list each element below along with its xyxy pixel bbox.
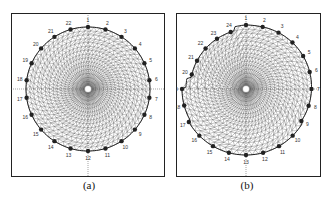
electrode-21 [52, 35, 56, 39]
electrode-7 [309, 87, 313, 91]
electrode-12 [86, 149, 90, 153]
electrode-label: 2 [263, 17, 266, 23]
electrode-15 [39, 127, 43, 131]
electrode-6 [147, 78, 151, 82]
electrode-22 [68, 27, 72, 31]
electrode-19 [180, 87, 184, 91]
electrode-label: 19 [176, 86, 178, 92]
electrode-label: 1 [87, 17, 90, 23]
electrode-24 [229, 30, 233, 34]
electrode-label: 19 [22, 57, 28, 63]
center-hole [243, 86, 250, 93]
electrode-14 [52, 139, 56, 143]
mesh-diagram-a: 12345678910111213141516171819202122 [11, 13, 165, 177]
electrode-label: 8 [314, 104, 317, 110]
electrode-label: 10 [123, 144, 129, 150]
electrode-label: 6 [155, 76, 158, 82]
electrode-label: 13 [66, 152, 72, 158]
electrode-label: 1 [245, 15, 248, 21]
electrode-label: 5 [149, 57, 152, 63]
electrode-label: 14 [48, 144, 54, 150]
electrode-8 [142, 113, 146, 117]
electrode-label: 13 [243, 159, 249, 165]
electrode-13 [68, 146, 72, 150]
electrode-label: 7 [317, 86, 320, 92]
electrode-label: 17 [17, 96, 23, 102]
electrode-1 [244, 23, 248, 27]
electrode-20 [39, 46, 43, 50]
electrode-label: 3 [281, 23, 284, 29]
electrode-2 [260, 25, 264, 29]
panel-b: 123456789101112131415161718192021222324 [176, 13, 321, 181]
panel-a: 12345678910111213141516171819202122 [11, 13, 165, 181]
electrode-label: 7 [155, 96, 158, 102]
electrode-label: 21 [188, 54, 194, 60]
electrode-label: 8 [149, 114, 152, 120]
electrode-18 [24, 78, 28, 82]
electrode-label: 14 [224, 156, 230, 162]
electrode-4 [133, 46, 137, 50]
electrode-19 [29, 61, 33, 65]
center-hole [85, 86, 92, 93]
electrode-label: 6 [315, 67, 318, 73]
electrode-18 [182, 103, 186, 107]
electrode-20 [190, 72, 194, 76]
electrode-label: 15 [33, 131, 39, 137]
electrode-7 [147, 96, 151, 100]
electrode-label: 3 [124, 28, 127, 34]
electrode-label: 12 [85, 155, 91, 161]
electrode-10 [119, 139, 123, 143]
electrode-3 [276, 30, 280, 34]
electrode-label: 23 [211, 30, 217, 36]
electrode-label: 20 [182, 69, 188, 75]
electrode-11 [277, 144, 281, 148]
electrode-label: 2 [106, 20, 109, 26]
electrode-13 [244, 153, 248, 157]
electrode-label: 16 [22, 114, 28, 120]
electrode-5 [142, 61, 146, 65]
caption-a: (a) [69, 179, 109, 191]
electrode-label: 18 [176, 104, 180, 110]
mesh-diagram-b: 123456789101112131415161718192021222324 [176, 13, 321, 177]
electrode-16 [29, 113, 33, 117]
electrode-label: 4 [296, 34, 299, 40]
electrode-label: 5 [308, 49, 311, 55]
electrode-label: 24 [226, 22, 232, 28]
electrode-5 [301, 54, 305, 58]
electrode-21 [195, 59, 199, 63]
electrode-label: 16 [192, 137, 198, 143]
electrode-3 [119, 35, 123, 39]
electrode-12 [261, 151, 265, 155]
electrode-1 [86, 25, 90, 29]
electrode-label: 18 [17, 76, 23, 82]
electrode-23 [215, 37, 219, 41]
electrode-label: 4 [139, 41, 142, 47]
electrode-label: 9 [306, 121, 309, 127]
electrode-label: 10 [295, 137, 301, 143]
electrode-label: 15 [207, 149, 213, 155]
electrode-2 [103, 27, 107, 31]
electrode-9 [133, 127, 137, 131]
caption-b: (b) [227, 179, 267, 191]
electrode-label: 20 [33, 41, 39, 47]
electrode-label: 12 [262, 156, 268, 162]
electrode-label: 11 [105, 152, 110, 158]
electrode-6 [307, 70, 311, 74]
electrode-16 [197, 133, 201, 137]
electrode-label: 21 [48, 28, 54, 34]
electrode-9 [299, 119, 303, 123]
electrode-label: 22 [66, 20, 72, 26]
electrode-label: 11 [280, 149, 285, 155]
electrode-17 [187, 120, 191, 124]
electrode-label: 22 [198, 40, 204, 46]
electrode-17 [24, 96, 28, 100]
electrode-22 [203, 46, 207, 50]
electrode-14 [227, 151, 231, 155]
electrode-label: 17 [180, 122, 186, 128]
electrode-label: 9 [139, 131, 142, 137]
electrode-11 [103, 146, 107, 150]
electrode-15 [211, 144, 215, 148]
electrode-8 [306, 104, 310, 108]
electrode-4 [290, 40, 294, 44]
